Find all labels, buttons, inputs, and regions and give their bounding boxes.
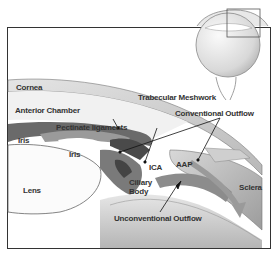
label-cornea: Cornea [16,83,42,92]
label-anterior-chamber: Anterior Chamber [15,106,80,115]
label-aap: AAP [176,160,192,169]
lens-shape [8,144,101,214]
label-iris-center: Iris [69,150,80,159]
label-unconventional-outflow: Unconventional Outflow [114,214,202,223]
label-ciliary-body: Ciliary Body [129,178,157,196]
label-ica: ICA [149,163,162,172]
label-sclera: Sclera [239,183,262,192]
label-iris-left: Iris [18,136,29,145]
label-trabecular-meshwork: Trabecular Meshwork [138,93,216,102]
inset-eye-globe [196,9,268,100]
label-lens: Lens [23,186,41,195]
label-pectinate-ligaments: Pectinate ligaments [56,123,127,132]
label-conventional-outflow: Conventional Outflow [175,109,254,118]
